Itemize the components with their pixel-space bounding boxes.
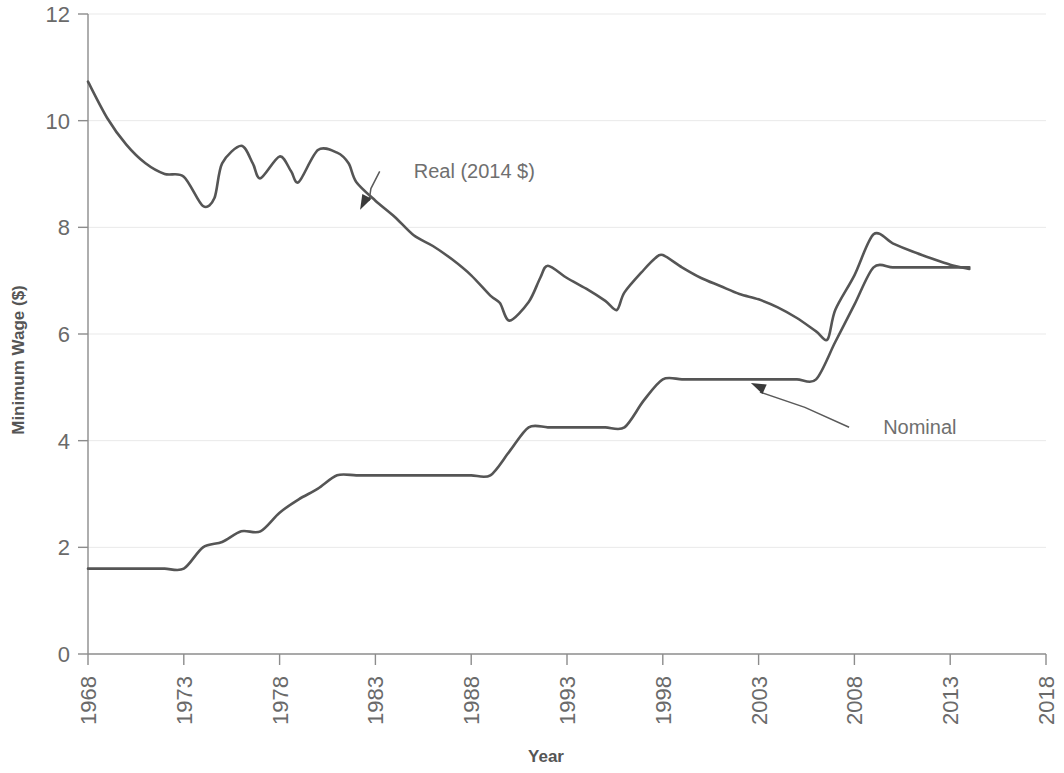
annotation-arrowhead xyxy=(751,383,767,394)
annotation-leader-line xyxy=(760,392,849,427)
y-tick-label: 0 xyxy=(58,642,70,667)
y-tick-label: 8 xyxy=(58,215,70,240)
y-tick-label: 4 xyxy=(58,429,70,454)
y-tick-label: 2 xyxy=(58,535,70,560)
chart-canvas: 024681012 196819731978198319881993199820… xyxy=(0,0,1064,773)
y-axis-title: Minimum Wage ($) xyxy=(9,285,28,435)
y-tick-label: 6 xyxy=(58,322,70,347)
y-tick-label: 10 xyxy=(46,109,70,134)
x-tick-label: 2008 xyxy=(842,676,867,725)
x-axis-title: Year xyxy=(528,747,564,766)
x-tick-label: 2003 xyxy=(747,676,772,725)
minimum-wage-chart: 024681012 196819731978198319881993199820… xyxy=(0,0,1064,773)
data-series-group xyxy=(88,82,969,570)
y-tick-label: 12 xyxy=(46,2,70,27)
x-tick-label: 1988 xyxy=(459,676,484,725)
x-axis-ticks: 1968197319781983198819931998200320082013… xyxy=(76,654,1059,725)
x-tick-label: 2018 xyxy=(1034,676,1059,725)
nominal-series-annotation: Nominal xyxy=(883,416,956,438)
series-line-nominal xyxy=(88,265,969,570)
annotations-group: Real (2014 $)Nominal xyxy=(360,160,956,438)
real-series-annotation: Real (2014 $) xyxy=(414,160,535,182)
x-tick-label: 2013 xyxy=(938,676,963,725)
x-tick-label: 1993 xyxy=(555,676,580,725)
x-tick-label: 1968 xyxy=(76,676,101,725)
x-tick-label: 1998 xyxy=(651,676,676,725)
y-axis-ticks: 024681012 xyxy=(46,2,88,667)
x-tick-label: 1973 xyxy=(172,676,197,725)
gridlines-group xyxy=(88,14,1046,547)
x-tick-label: 1978 xyxy=(268,676,293,725)
x-tick-label: 1983 xyxy=(363,676,388,725)
